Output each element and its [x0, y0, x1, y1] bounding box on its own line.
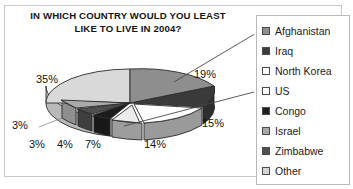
legend-item-congo[interactable]: Congo [262, 101, 349, 121]
legend-swatch-north-korea [262, 67, 270, 75]
legend-label-iraq: Iraq [275, 45, 293, 57]
legend-item-other[interactable]: Other [262, 161, 349, 181]
legend-label-afghanistan: Afghanistan [275, 25, 330, 37]
pie-chart-figure: IN WHICH COUNTRY WOULD YOU LEAST LIKE TO… [0, 0, 353, 189]
legend-label-israel: Israel [275, 125, 301, 137]
data-label-us: 7% [85, 138, 101, 150]
legend-swatch-afghanistan [262, 27, 270, 35]
legend-swatch-us [262, 87, 270, 95]
legend-swatch-iraq [262, 47, 270, 55]
data-label-afghanistan: 19% [194, 68, 216, 80]
legend-item-us[interactable]: US [262, 81, 349, 101]
legend-item-iraq[interactable]: Iraq [262, 41, 349, 61]
chart-legend: Afghanistan Iraq North Korea US Congo Is… [256, 15, 350, 185]
data-label-congo: 4% [57, 138, 73, 150]
legend-label-north-korea: North Korea [275, 65, 332, 77]
legend-swatch-congo [262, 107, 270, 115]
data-label-zimbabwe: 3% [29, 138, 45, 150]
data-label-north-korea: 14% [144, 138, 166, 150]
legend-label-us: US [275, 85, 290, 97]
data-label-israel: 3% [12, 119, 28, 131]
legend-item-zimbabwe[interactable]: Zimbabwe [262, 141, 349, 161]
legend-item-north-korea[interactable]: North Korea [262, 61, 349, 81]
legend-label-zimbabwe: Zimbabwe [275, 145, 323, 157]
data-label-iraq: 15% [202, 117, 224, 129]
data-label-other: 35% [36, 73, 58, 85]
chart-title-line-1: IN WHICH COUNTRY WOULD YOU LEAST [12, 9, 244, 22]
legend-label-congo: Congo [275, 105, 306, 117]
legend-item-israel[interactable]: Israel [262, 121, 349, 141]
leader-line-israel [39, 118, 62, 127]
legend-swatch-other [262, 167, 270, 175]
legend-label-other: Other [275, 165, 301, 177]
legend-item-afghanistan[interactable]: Afghanistan [262, 21, 349, 41]
pie-slice-other [46, 69, 130, 103]
legend-swatch-israel [262, 127, 270, 135]
legend-swatch-zimbabwe [262, 147, 270, 155]
